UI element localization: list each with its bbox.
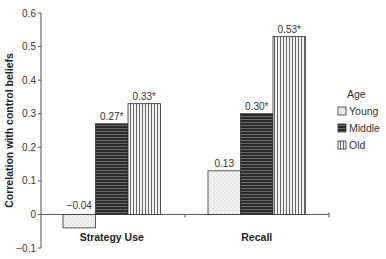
legend-label-old: Old (349, 139, 366, 151)
data-label: 0.27* (100, 111, 123, 122)
y-tick-label: 0.2 (22, 142, 36, 153)
data-label: 0.13 (215, 158, 235, 169)
x-category-label: Strategy Use (80, 231, 144, 243)
bar-chart: −0.100.10.20.30.40.50.6Correlation with … (0, 0, 386, 259)
legend-swatch-old (338, 141, 346, 149)
legend-title: Age (347, 88, 366, 100)
x-category-label: Recall (241, 231, 272, 243)
data-label: 0.30* (245, 101, 268, 112)
y-tick-label: −0.1 (16, 243, 36, 254)
y-tick-label: 0.4 (22, 75, 36, 86)
y-tick-label: 0.5 (22, 41, 36, 52)
bar-middle (241, 114, 274, 215)
data-label: −0.04 (67, 200, 93, 211)
bar-middle (96, 124, 129, 215)
y-tick-label: 0.3 (22, 108, 36, 119)
bar-young (63, 214, 96, 227)
legend-swatch-middle (338, 124, 346, 132)
y-tick-label: 0.1 (22, 175, 36, 186)
y-tick-label: 0 (30, 209, 36, 220)
legend-label-middle: Middle (349, 122, 380, 134)
y-tick-label: 0.6 (22, 8, 36, 19)
legend-swatch-young (338, 107, 346, 115)
bar-old (273, 37, 306, 215)
data-label: 0.33* (133, 91, 156, 102)
legend-label-young: Young (349, 105, 379, 117)
data-label: 0.53* (278, 24, 301, 35)
y-axis-title: Correlation with control beliefs (3, 53, 15, 208)
bar-old (128, 104, 161, 215)
bar-young (208, 171, 241, 215)
